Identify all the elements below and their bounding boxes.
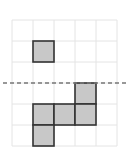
filled-square <box>33 104 54 125</box>
grid-diagram <box>0 0 131 153</box>
filled-square <box>33 41 54 62</box>
filled-square <box>75 104 96 125</box>
filled-squares <box>33 41 96 146</box>
filled-square <box>54 104 75 125</box>
filled-square <box>75 83 96 104</box>
filled-square <box>33 125 54 146</box>
